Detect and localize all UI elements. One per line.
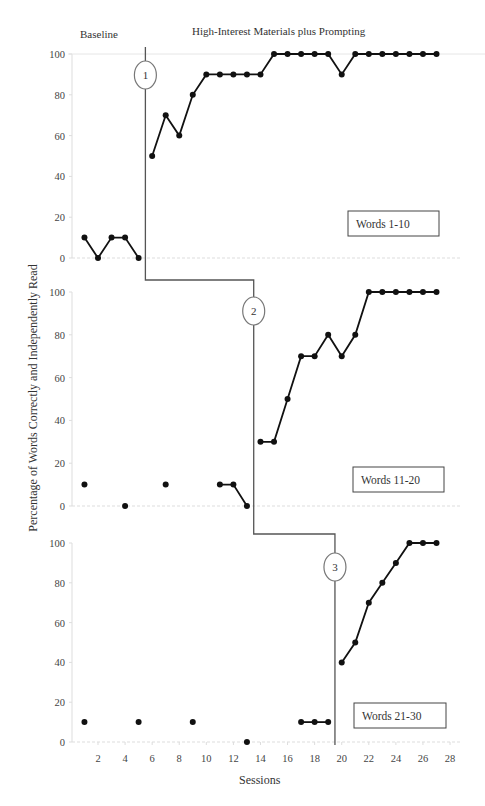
y-tick-label: 20 — [55, 458, 66, 469]
panel-label: Words 1-10 — [356, 218, 410, 230]
data-point — [339, 71, 345, 77]
data-point — [312, 719, 318, 725]
x-tick-label: 28 — [445, 753, 456, 764]
y-tick-label: 40 — [55, 657, 66, 668]
data-point — [393, 560, 399, 566]
y-tick-label: 0 — [60, 737, 65, 748]
y-tick-label: 100 — [49, 538, 65, 549]
x-tick-label: 26 — [418, 753, 429, 764]
data-point — [257, 439, 263, 445]
data-point — [190, 92, 196, 98]
data-point — [352, 332, 358, 338]
y-tick-label: 60 — [55, 373, 66, 384]
data-point — [298, 719, 304, 725]
data-point — [379, 51, 385, 57]
data-point — [352, 51, 358, 57]
data-point — [434, 289, 440, 295]
data-point — [136, 719, 142, 725]
y-tick-label: 60 — [55, 131, 66, 142]
phase-marker-number: 2 — [251, 305, 257, 317]
data-point — [366, 51, 372, 57]
data-point — [325, 51, 331, 57]
x-tick-label: 10 — [201, 753, 212, 764]
phase-marker-2: 2 — [243, 297, 265, 325]
data-point — [230, 482, 236, 488]
treatment-series-line — [260, 292, 436, 442]
data-point — [406, 51, 412, 57]
y-tick-label: 20 — [55, 212, 66, 223]
baseline-series — [81, 719, 331, 745]
y-tick-label: 40 — [55, 171, 66, 182]
data-point — [149, 153, 155, 159]
data-point — [420, 51, 426, 57]
baseline-series-line — [84, 238, 138, 258]
data-point — [81, 719, 87, 725]
data-point — [434, 540, 440, 546]
data-point — [81, 482, 87, 488]
y-tick-label: 100 — [49, 49, 65, 60]
data-point — [109, 235, 115, 241]
treatment-series — [339, 540, 440, 665]
data-point — [285, 396, 291, 402]
data-point — [420, 289, 426, 295]
data-point — [406, 540, 412, 546]
data-point — [163, 112, 169, 118]
data-point — [298, 353, 304, 359]
data-point — [163, 482, 169, 488]
x-tick-label: 16 — [282, 753, 293, 764]
treatment-series-line — [152, 54, 436, 156]
phase-marker-3: 3 — [324, 553, 346, 581]
phase-change-lines: 123 — [134, 47, 346, 745]
data-point — [217, 71, 223, 77]
x-tick-label: 8 — [177, 753, 182, 764]
x-tick-label: 6 — [150, 753, 155, 764]
x-tick-label: 22 — [364, 753, 375, 764]
panel-1: 020406080100Words 1-10 — [49, 49, 485, 264]
data-point — [312, 353, 318, 359]
data-point — [379, 580, 385, 586]
data-point — [230, 71, 236, 77]
x-tick-label: 12 — [228, 753, 239, 764]
treatment-phase-label: High-Interest Materials plus Prompting — [192, 25, 366, 37]
data-point — [176, 133, 182, 139]
phase-marker-number: 3 — [332, 561, 338, 573]
data-point — [352, 640, 358, 646]
data-point — [95, 255, 101, 261]
baseline-phase-label: Baseline — [80, 28, 118, 40]
baseline-series — [81, 482, 249, 509]
panel-3: 020406080100Words 21-30 — [49, 538, 460, 748]
data-point — [339, 659, 345, 665]
y-tick-label: 60 — [55, 618, 66, 629]
data-point — [285, 51, 291, 57]
data-point — [203, 71, 209, 77]
x-axis-label: Sessions — [239, 773, 281, 787]
data-point — [271, 439, 277, 445]
panels-group: 020406080100Words 1-10020406080100Words … — [49, 49, 485, 748]
y-tick-label: 80 — [55, 330, 66, 341]
data-point — [325, 332, 331, 338]
data-point — [122, 503, 128, 509]
y-tick-label: 0 — [60, 253, 65, 264]
data-point — [379, 289, 385, 295]
data-point — [393, 51, 399, 57]
data-point — [406, 289, 412, 295]
panel-label: Words 11-20 — [361, 474, 420, 486]
data-point — [244, 503, 250, 509]
y-tick-label: 80 — [55, 90, 66, 101]
data-point — [312, 51, 318, 57]
multiple-baseline-chart: Baseline High-Interest Materials plus Pr… — [0, 0, 485, 806]
y-tick-label: 100 — [49, 287, 65, 298]
data-point — [244, 71, 250, 77]
data-point — [190, 719, 196, 725]
phase-marker-number: 1 — [143, 69, 149, 81]
data-point — [420, 540, 426, 546]
y-axis-label: Percentage of Words Correctly and Indepe… — [26, 264, 40, 531]
panel-label: Words 21-30 — [362, 710, 422, 722]
data-point — [244, 739, 250, 745]
baseline-series — [81, 235, 141, 261]
y-tick-label: 40 — [55, 415, 66, 426]
data-point — [339, 353, 345, 359]
treatment-series — [149, 51, 439, 159]
data-point — [122, 235, 128, 241]
phase-change-line — [145, 47, 335, 745]
